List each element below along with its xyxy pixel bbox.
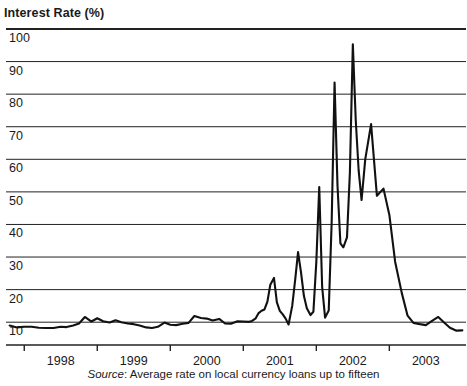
x-tick-label: 2001 — [266, 354, 294, 368]
grid-lines — [6, 29, 466, 322]
x-axis — [6, 345, 466, 351]
y-tick-label: 100 — [9, 31, 30, 45]
data-series-interest-rate — [10, 44, 463, 330]
x-tick-label: 1998 — [47, 354, 75, 368]
x-tick-label: 2003 — [412, 354, 440, 368]
x-tick-label: 2000 — [193, 354, 221, 368]
y-tick-label: 70 — [9, 129, 23, 143]
y-tick-label: 40 — [9, 226, 23, 240]
y-tick-label: 30 — [9, 259, 23, 273]
chart-figure: Interest Rate (%) 102030405060708090100 … — [0, 0, 467, 386]
source-note: Source: Average rate on local currency l… — [0, 368, 467, 380]
source-label: Source — [88, 368, 124, 380]
series-line-interest-rate — [10, 44, 463, 330]
line-chart-plot: 102030405060708090100 199819992000200120… — [0, 0, 467, 386]
x-axis-tick-labels: 199819992000200120022003 — [47, 354, 440, 368]
y-axis-tick-labels: 102030405060708090100 — [9, 31, 30, 338]
x-tick-label: 1999 — [120, 354, 148, 368]
y-tick-label: 90 — [9, 64, 23, 78]
y-tick-label: 20 — [9, 292, 23, 306]
y-tick-label: 80 — [9, 96, 23, 110]
x-tick-label: 2002 — [339, 354, 367, 368]
source-text: Average rate on local currency loans up … — [130, 368, 380, 380]
y-tick-label: 50 — [9, 194, 23, 208]
y-tick-label: 60 — [9, 161, 23, 175]
